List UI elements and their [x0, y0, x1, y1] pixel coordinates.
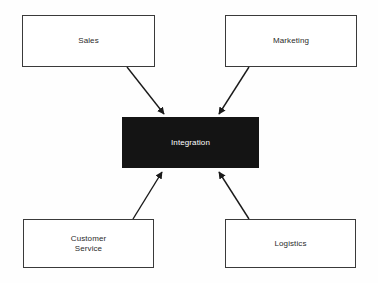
node-integration[interactable]: Integration	[122, 117, 259, 168]
node-customer-service-label: Customer Service	[71, 234, 106, 254]
connector-marketing-to-integration	[219, 67, 249, 114]
node-marketing-label: Marketing	[273, 36, 309, 46]
node-logistics[interactable]: Logistics	[225, 219, 356, 268]
node-marketing[interactable]: Marketing	[225, 15, 357, 67]
node-customer-service[interactable]: Customer Service	[23, 219, 154, 268]
node-logistics-label: Logistics	[274, 239, 306, 249]
node-sales-label: Sales	[78, 36, 99, 46]
connector-logistics-to-integration	[219, 172, 249, 219]
connector-sales-to-integration	[127, 67, 164, 114]
node-sales[interactable]: Sales	[22, 15, 155, 67]
diagram-canvas: Sales Marketing Integration Customer Ser…	[0, 0, 378, 283]
node-integration-label: Integration	[171, 138, 210, 148]
connector-customer-service-to-integration	[133, 172, 162, 219]
